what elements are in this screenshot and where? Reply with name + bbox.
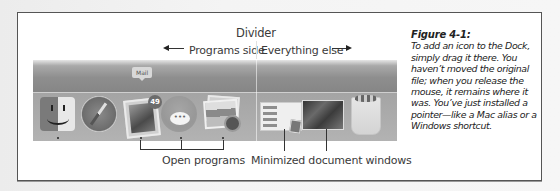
everything-else-label: Everything else [261,44,343,57]
messages-bubble-icon: ••• [170,112,190,125]
bracket-horizontal [140,149,224,150]
window-row [263,112,277,115]
window-row [263,118,277,121]
caption-body: To add an icon to the Dock, simply drag … [411,40,537,131]
programs-side-label: Programs side [189,44,265,57]
minimized-windows-label: Minimized document windows [251,154,412,167]
minimized-callout-line-2 [326,129,327,151]
finder-eye-right [63,105,65,111]
divider-label: Divider [236,27,276,40]
mail-tooltip: Mail [132,67,152,78]
open-programs-label: Open programs [162,154,245,167]
finder-eye-left [51,105,53,111]
figure-caption: Figure 4-1: To add an icon to the Dock, … [411,29,539,132]
minimized-callout-line-1 [284,129,285,151]
minimized-window-icon[interactable] [302,100,344,130]
photos-lens-icon [224,115,241,132]
window-row [263,106,277,109]
finder-smile [47,113,69,125]
trash-icon[interactable] [351,97,381,135]
finder-icon[interactable] [40,97,75,131]
desktop-background [33,60,397,92]
arrow-left-line [168,48,184,49]
running-indicator [180,137,182,139]
arrow-right-icon [346,45,352,51]
running-indicator [140,137,142,139]
dock-screenshot: Mail 49 ••• [33,60,397,141]
running-indicator [57,137,59,139]
minimized-window-app-badge-icon [289,119,302,133]
safari-icon[interactable] [81,96,117,132]
arrow-right-line [332,48,346,49]
window-row [263,124,277,127]
caption-title: Figure 4-1: [411,29,539,40]
safari-compass-needle [90,102,107,125]
trash-paper [355,95,377,102]
running-indicator [222,137,224,139]
dock-divider-line [256,41,257,141]
mail-unread-badge: 49 [148,95,162,109]
